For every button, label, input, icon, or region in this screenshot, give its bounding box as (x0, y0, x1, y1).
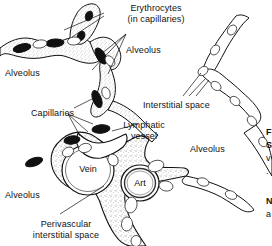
edge-caption-line-6: a (266, 208, 271, 221)
figure-canvas: Erythrocytes (in capillaries) Alveolus A… (0, 0, 272, 246)
label-alveolus-bottom-left: Alveolus (5, 190, 40, 201)
edge-caption-line-1: F (266, 126, 272, 139)
edge-caption-line-3: v (266, 152, 271, 165)
edge-caption-line-2: S (266, 139, 272, 152)
edge-caption-line-4: . (266, 165, 269, 178)
label-alveolus-left: Alveolus (5, 68, 40, 79)
label-perivascular-interstitial-space: Perivascular interstitial space (2, 219, 130, 240)
edge-caption-line-5: N (266, 195, 272, 208)
label-erythrocytes: Erythrocytes (in capillaries) (102, 3, 210, 24)
label-lymphatic-vessel: Lymphatic vessel (113, 120, 175, 141)
label-capillaries: Capillaries (31, 108, 74, 119)
label-vein: Vein (70, 164, 106, 174)
capillary-right-lower-strand (182, 176, 254, 212)
label-alveolus-right: Alveolus (190, 144, 225, 155)
label-alveolus-top: Alveolus (126, 45, 161, 56)
label-interstitial-space: Interstitial space (143, 100, 210, 111)
label-artery: Art (126, 178, 154, 188)
